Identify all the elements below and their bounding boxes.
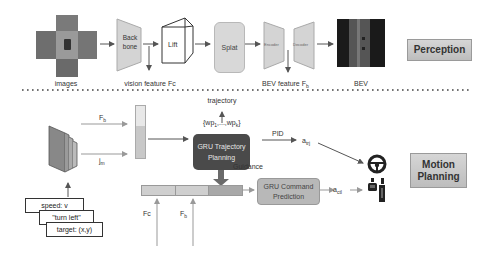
gru-traj-line2: Planning: [208, 152, 235, 163]
wp-a: {wp: [203, 119, 214, 126]
wp-end: }: [238, 119, 240, 126]
bev-label: BEV: [341, 80, 381, 87]
gru-traj-line1: GRU Trajectory: [197, 141, 245, 152]
decoder-label: Decoder: [293, 42, 308, 47]
fb-sub: b: [103, 117, 106, 123]
backbone-label-line1: Back: [118, 33, 142, 42]
wp-mid: ,...,wp: [217, 119, 236, 126]
images-label: images: [46, 80, 86, 87]
a-trj-label: atrj: [302, 137, 310, 146]
command-feature-bar: [141, 185, 243, 196]
input-target-text: target: (x,y): [57, 226, 92, 233]
gru-cmd-line2: Prediction: [273, 192, 304, 202]
fb-label: Fb: [99, 114, 106, 123]
concat-feature-bar: [135, 105, 146, 159]
fb2-label: Fb: [180, 210, 187, 219]
a-trj-sub: trj: [306, 140, 310, 146]
guidance-label: Guidance: [233, 163, 263, 170]
jm-label: jm: [99, 157, 105, 166]
input-speed-text: speed: v: [41, 202, 67, 209]
motion-planning-line1: Motion: [417, 159, 459, 171]
vision-feature-label: vision feature Fc: [115, 80, 185, 87]
fc-label: Fc: [143, 210, 151, 217]
splat-label: Splat: [222, 44, 238, 51]
bev-feature-sub: b: [306, 83, 309, 89]
gru-cmd-line1: GRU Command: [264, 182, 314, 192]
pedals-icon: [368, 178, 385, 202]
input-target-card: target: (x,y): [46, 222, 103, 237]
gru-command-prediction-block: GRU Command Prediction: [257, 178, 320, 205]
perception-stage-box: Perception: [407, 39, 472, 61]
a-ctl-sub: ctl: [337, 189, 342, 195]
a-ctl-label: actl: [333, 186, 342, 195]
steering-wheel-icon: [369, 156, 385, 172]
backbone-label: Back bone: [118, 33, 142, 51]
motion-planning-stage-box: Motion Planning: [410, 153, 467, 188]
trajectory-label: trajectory: [200, 97, 244, 104]
feature-maps-stack: [47, 124, 81, 174]
bev-feature-text: BEV feature F: [262, 80, 306, 87]
fb2-sub: b: [184, 213, 187, 219]
vehicle-control-icons: [366, 154, 388, 204]
bev-feature-label: BEV feature Fb: [262, 80, 309, 89]
motion-planning-line2: Planning: [417, 171, 459, 183]
waypoints-label: {wp1,...,wpk}: [203, 119, 241, 128]
bev-map: [337, 19, 385, 67]
jm-sub: m: [101, 160, 105, 166]
lift-frustum: [161, 17, 195, 65]
splat-block: Splat: [214, 22, 245, 73]
lift-label: Lift: [168, 41, 177, 48]
perception-stage-label: Perception: [414, 44, 466, 56]
input-command-text: "turn left": [52, 214, 80, 221]
encoder-label: Encoder: [264, 42, 279, 47]
camera-images: [36, 15, 97, 77]
backbone-label-line2: bone: [118, 42, 142, 51]
pid-label: PID: [272, 130, 284, 137]
